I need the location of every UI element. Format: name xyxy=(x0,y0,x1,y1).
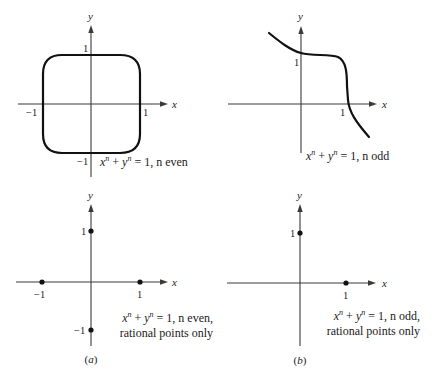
x-axis-label: x xyxy=(171,276,177,288)
panel-caption-b: (b) xyxy=(294,354,307,367)
odd-curve xyxy=(269,33,369,137)
equation-label: xn+yn= 1, n odd xyxy=(305,148,389,163)
equation-label: xn+yn= 1, n even, xyxy=(121,310,213,325)
y-axis-arrow-icon xyxy=(88,204,93,212)
tick-label-y-pos: 1 xyxy=(83,43,88,54)
x-axis-arrow-icon xyxy=(160,279,168,284)
y-axis-label: y xyxy=(87,189,93,201)
rational-point-0-1 xyxy=(88,228,93,233)
tick-label-y-pos: 1 xyxy=(81,226,86,237)
tick-label-y-pos: 1 xyxy=(294,57,299,68)
y-axis-arrow-icon xyxy=(297,204,302,212)
equation-label: xn+yn= 1, n even xyxy=(99,154,188,169)
tick-label-y-neg: −1 xyxy=(77,156,88,167)
tick-label-x-pos: 1 xyxy=(143,107,148,118)
y-axis-arrow-icon xyxy=(298,26,303,34)
tick-label-x-neg: −1 xyxy=(26,107,37,118)
panel-top-left: x y 1 −1 1 −1 xn+yn= 1, n even xyxy=(18,10,188,177)
x-axis-arrow-icon xyxy=(160,101,168,106)
equation-label: xn+yn= 1, n odd, xyxy=(333,308,420,323)
x-axis-label: x xyxy=(171,98,177,110)
panel-bottom-left: x y 1 −1 1 −1 xn+yn= 1, n even, rational… xyxy=(16,189,213,366)
panel-bottom-right: x y 1 1 xn+yn= 1, n odd, rational points… xyxy=(227,189,420,367)
x-axis-label: x xyxy=(381,277,387,289)
rational-point-1-0 xyxy=(343,280,348,285)
tick-label-y-pos: 1 xyxy=(290,228,295,239)
y-axis-arrow-icon xyxy=(88,25,93,33)
rational-point-neg1-0 xyxy=(39,279,44,284)
x-axis-arrow-icon xyxy=(369,101,377,106)
tick-label-y-neg: −1 xyxy=(74,325,85,336)
tick-label-x-pos: 1 xyxy=(343,290,348,301)
x-axis-arrow-icon xyxy=(368,280,376,285)
y-axis-label: y xyxy=(297,10,303,22)
rational-point-0-neg1 xyxy=(88,327,93,332)
equation-subtitle: rational points only xyxy=(327,324,420,338)
rational-point-1-0 xyxy=(137,279,142,284)
panel-caption-a: (a) xyxy=(85,353,98,366)
rational-point-0-1 xyxy=(297,230,302,235)
x-axis-label: x xyxy=(381,98,387,110)
tick-label-x-pos: 1 xyxy=(340,107,345,118)
tick-label-x-pos: 1 xyxy=(137,289,142,300)
tick-label-x-neg: −1 xyxy=(34,289,45,300)
y-axis-label: y xyxy=(296,189,302,201)
fermat-curves-figure: x y 1 −1 1 −1 xn+yn= 1, n even x y 1 1 xyxy=(0,0,437,381)
equation-subtitle: rational points only xyxy=(120,326,213,340)
y-axis-label: y xyxy=(87,10,93,22)
panel-top-right: x y 1 1 xn+yn= 1, n odd xyxy=(228,10,389,163)
